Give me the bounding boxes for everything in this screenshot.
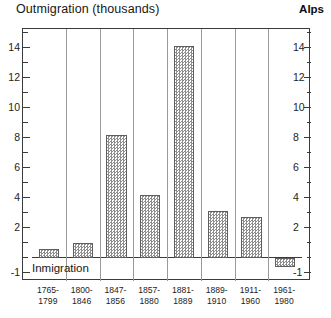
y-axis-label-right: 6 [293, 161, 299, 173]
x-axis-category-line: 1800- [65, 285, 99, 296]
y-tick-right-2 [304, 227, 311, 228]
bar-1881-1889 [174, 46, 194, 258]
y-tick-right--1 [304, 272, 311, 273]
bar-1857-1880 [140, 195, 160, 258]
chart-y-axis-title: Outmigration (thousands) [16, 2, 159, 16]
bar-1800-1846 [73, 243, 93, 258]
y-axis-label-right: 12 [293, 71, 305, 83]
y-tick-right-12 [304, 77, 311, 78]
category-separator [201, 29, 202, 281]
y-tick-right-0 [307, 257, 312, 258]
y-tick-left-1 [23, 242, 28, 243]
x-axis-category: 1857-1880 [132, 285, 166, 315]
chart-region-label: Alps [299, 3, 324, 15]
x-axis-category-line: 1765- [31, 285, 65, 296]
y-tick-right-14 [304, 47, 311, 48]
plot-area [32, 29, 302, 281]
category-separator [167, 29, 168, 281]
x-axis-category-line: 1880 [132, 296, 166, 307]
y-axis-label-left: 6 [14, 161, 20, 173]
category-separator [268, 29, 269, 281]
y-tick-left-14 [23, 47, 30, 48]
bar-1889-1910 [208, 211, 228, 258]
y-tick-right-1 [307, 242, 312, 243]
x-axis-category-line: 1910 [200, 296, 234, 307]
x-axis-category: 1765-1799 [31, 285, 65, 315]
y-axis-label-right: 4 [293, 191, 299, 203]
y-axis-label-left: 12 [8, 71, 20, 83]
category-separator [133, 29, 134, 281]
y-tick-left-0 [23, 257, 28, 258]
y-tick-left-7 [23, 152, 28, 153]
x-axis-category-line: 1961- [267, 285, 301, 296]
category-separator [235, 29, 236, 281]
y-axis-label-right: -1 [293, 266, 302, 278]
category-separator [66, 29, 67, 281]
x-axis-category-line: 1960 [234, 296, 268, 307]
y-tick-left-8 [23, 137, 30, 138]
y-axis-label-right: 2 [293, 221, 299, 233]
inmigration-caption: Inmigration [32, 262, 89, 274]
y-tick-right-11 [307, 92, 312, 93]
y-axis-label-right: 14 [293, 41, 305, 53]
y-tick-left-3 [23, 212, 28, 213]
plot-frame [22, 28, 310, 280]
x-axis-category-line: 1856 [99, 296, 133, 307]
x-axis-category: 1881-1889 [166, 285, 200, 315]
y-tick-right-5 [307, 182, 312, 183]
x-axis-category-line: 1911- [234, 285, 268, 296]
y-tick-right-6 [304, 167, 311, 168]
x-axis-category-line: 1857- [132, 285, 166, 296]
y-axis-label-right: 10 [293, 101, 305, 113]
y-tick-left-10 [23, 107, 30, 108]
x-axis-category: 1961-1980 [267, 285, 301, 315]
x-axis-category: 1800-1846 [65, 285, 99, 315]
y-tick-right-10 [304, 107, 311, 108]
x-axis-labels: 1765-17991800-18461847-18561857-18801881… [31, 285, 301, 315]
y-tick-left-9 [23, 122, 28, 123]
x-axis-category: 1889-1910 [200, 285, 234, 315]
y-axis-label-left: 4 [14, 191, 20, 203]
y-tick-left-2 [23, 227, 30, 228]
y-axis-label-left: 10 [8, 101, 20, 113]
x-axis-category-line: 1889- [200, 285, 234, 296]
y-tick-right-4 [304, 197, 311, 198]
y-axis-label-left: -1 [11, 266, 20, 278]
y-tick-left-5 [23, 182, 28, 183]
x-axis-category-line: 1881- [166, 285, 200, 296]
y-tick-right-9 [307, 122, 312, 123]
bar-1765-1799 [39, 249, 59, 258]
y-tick-left-15 [23, 32, 28, 33]
bar-1847-1856 [106, 135, 126, 258]
y-tick-right-3 [307, 212, 312, 213]
y-tick-left-6 [23, 167, 30, 168]
y-tick-right-13 [307, 62, 312, 63]
y-tick-left--1 [23, 272, 30, 273]
y-tick-left-12 [23, 77, 30, 78]
x-axis-category: 1847-1856 [99, 285, 133, 315]
bar-1911-1960 [241, 217, 261, 258]
y-tick-left-11 [23, 92, 28, 93]
chart-figure: Outmigration (thousands) Alps Inmigratio… [0, 0, 331, 318]
x-axis-category: 1911-1960 [234, 285, 268, 315]
x-axis-category-line: 1846 [65, 296, 99, 307]
y-tick-right-7 [307, 152, 312, 153]
y-tick-right-15 [307, 32, 312, 33]
y-tick-right-8 [304, 137, 311, 138]
y-axis-label-right: 8 [293, 131, 299, 143]
y-axis-label-left: 14 [8, 41, 20, 53]
x-axis-category-line: 1889 [166, 296, 200, 307]
y-axis-label-left: 2 [14, 221, 20, 233]
category-separator [100, 29, 101, 281]
y-tick-left-13 [23, 62, 28, 63]
y-tick-left-4 [23, 197, 30, 198]
y-axis-label-left: 8 [14, 131, 20, 143]
x-axis-category-line: 1847- [99, 285, 133, 296]
x-axis-category-line: 1980 [267, 296, 301, 307]
x-axis-category-line: 1799 [31, 296, 65, 307]
